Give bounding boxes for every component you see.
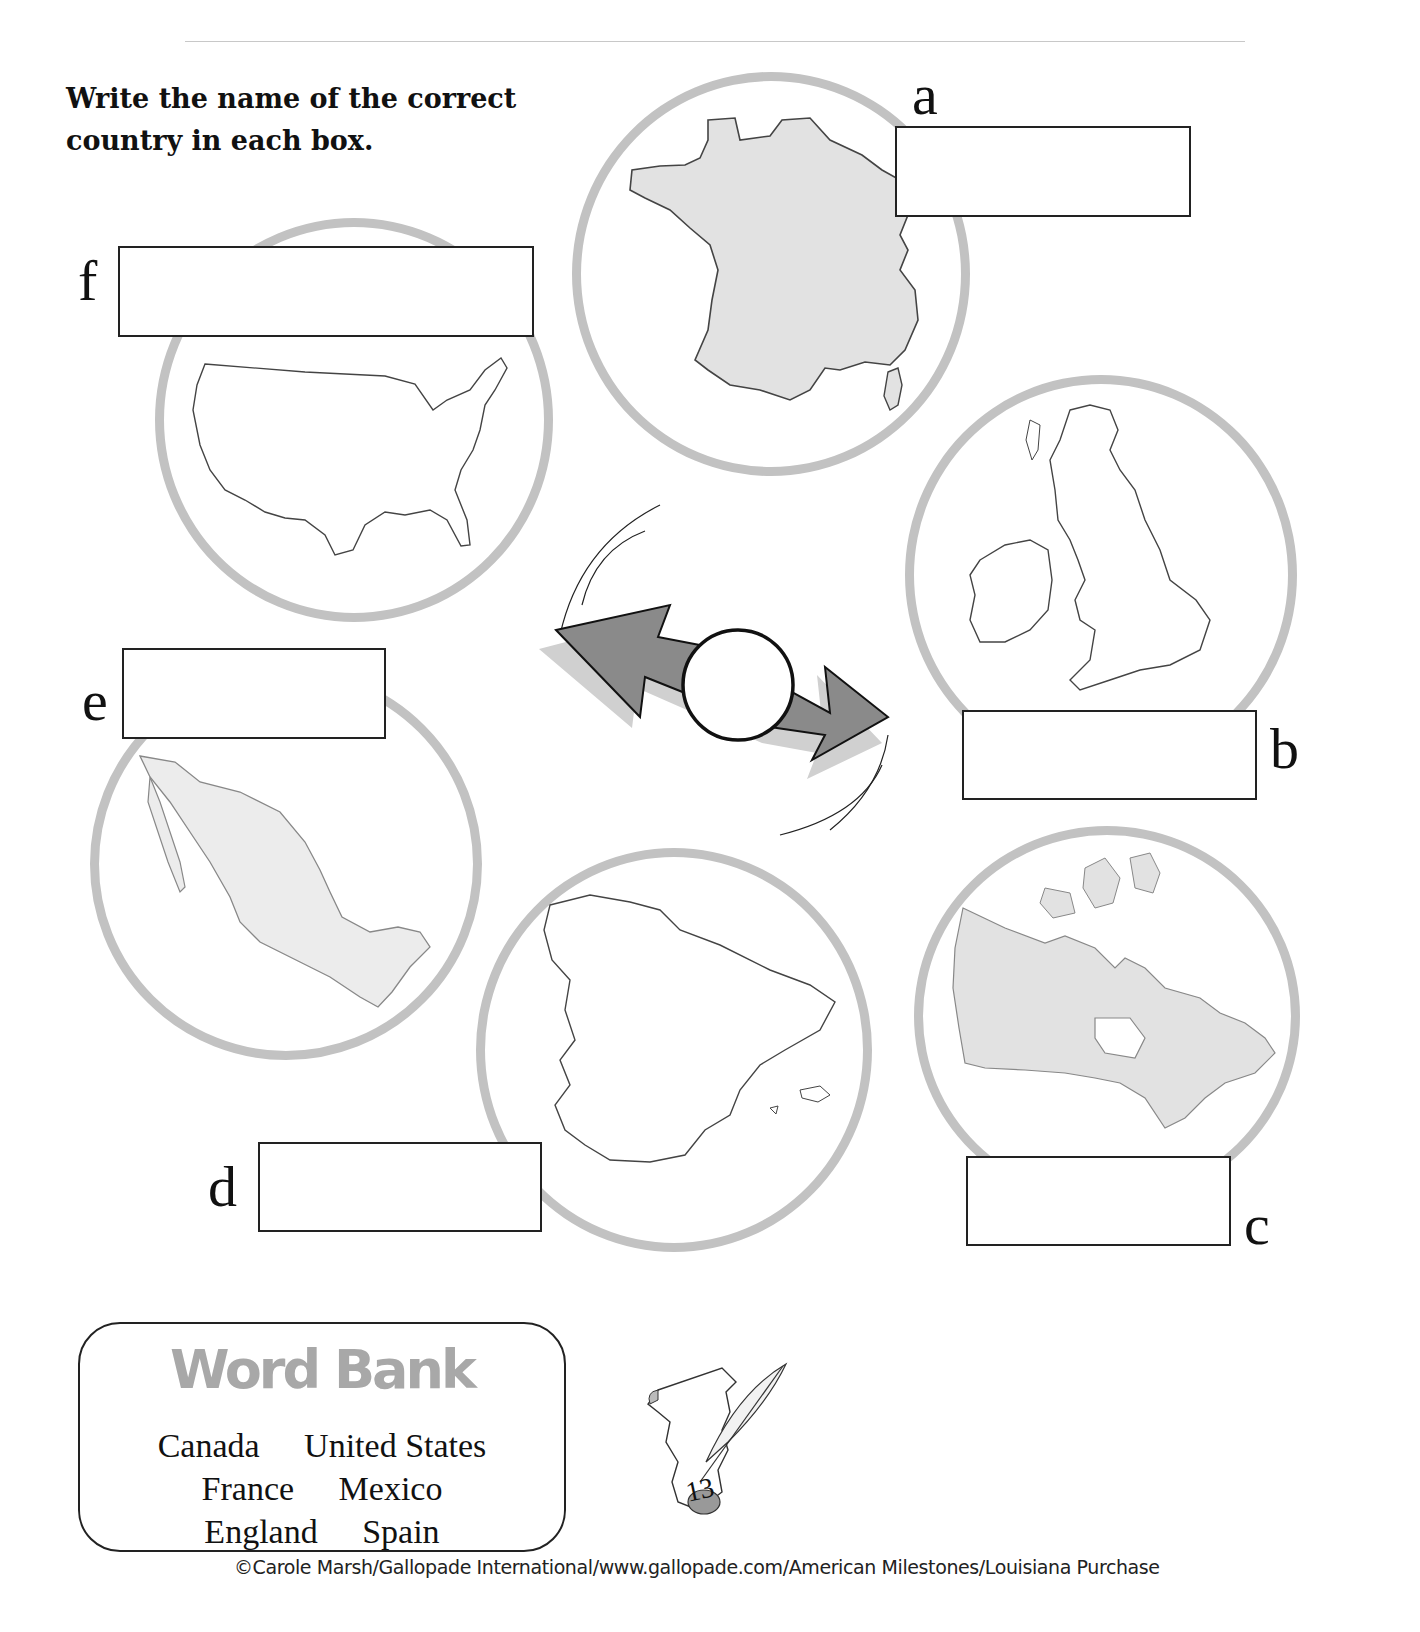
answer-box-b[interactable] bbox=[962, 710, 1257, 800]
answer-input-f[interactable] bbox=[120, 248, 532, 335]
answer-input-a[interactable] bbox=[897, 128, 1189, 215]
mexico-map bbox=[130, 752, 440, 1012]
united-states-map bbox=[185, 350, 515, 560]
answer-input-b[interactable] bbox=[964, 712, 1255, 798]
label-letter-d: d bbox=[208, 1158, 237, 1216]
instructions-line-1: Write the name of the correct bbox=[66, 78, 586, 120]
england-map bbox=[960, 380, 1220, 710]
france-map bbox=[600, 100, 930, 440]
word-bank-row-1: Canada United States bbox=[80, 1426, 564, 1466]
answer-box-d[interactable] bbox=[258, 1142, 542, 1232]
compass-arrow-graphic bbox=[520, 495, 900, 840]
word-bank-item: United States bbox=[304, 1427, 486, 1464]
word-bank-row-2: France Mexico bbox=[80, 1469, 564, 1509]
answer-input-e[interactable] bbox=[124, 650, 384, 737]
word-bank-title: Word Bank bbox=[80, 1340, 564, 1400]
top-rule bbox=[185, 41, 1245, 42]
copyright-footer: ©Carole Marsh/Gallopade International/ww… bbox=[234, 1556, 1160, 1578]
answer-box-c[interactable] bbox=[966, 1156, 1231, 1246]
word-bank-row-3: England Spain bbox=[80, 1512, 564, 1552]
answer-box-a[interactable] bbox=[895, 126, 1191, 217]
word-bank-item: Spain bbox=[362, 1513, 439, 1550]
word-bank-item: France bbox=[202, 1470, 295, 1507]
word-bank-item: England bbox=[204, 1513, 317, 1550]
canada-map bbox=[945, 848, 1285, 1138]
word-bank-item: Mexico bbox=[339, 1470, 443, 1507]
instructions: Write the name of the correct country in… bbox=[66, 78, 586, 162]
answer-input-c[interactable] bbox=[968, 1158, 1229, 1244]
label-letter-e: e bbox=[82, 672, 108, 730]
word-bank: Word Bank Canada United States France Me… bbox=[78, 1322, 566, 1552]
word-bank-item: Canada bbox=[158, 1427, 260, 1464]
label-letter-a: a bbox=[912, 66, 938, 124]
label-letter-c: c bbox=[1244, 1196, 1270, 1254]
spain-map bbox=[530, 890, 860, 1170]
answer-input-d[interactable] bbox=[260, 1144, 540, 1230]
label-letter-b: b bbox=[1270, 720, 1299, 778]
answer-box-f[interactable] bbox=[118, 246, 534, 337]
instructions-line-2: country in each box. bbox=[66, 120, 586, 162]
compass-center-circle bbox=[683, 630, 793, 740]
answer-box-e[interactable] bbox=[122, 648, 386, 739]
label-letter-f: f bbox=[78, 252, 97, 310]
